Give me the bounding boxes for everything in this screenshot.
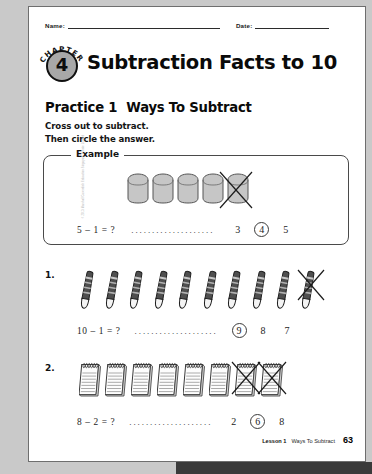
crayon-item [79, 269, 95, 315]
screenshot-root: Name: Date: CHAPTER 4 Subtraction Facts … [0, 0, 372, 474]
crayon-item [104, 269, 120, 315]
question-2-choices: 268 [226, 414, 289, 429]
cross-out-mark [218, 170, 254, 214]
practice-title: Ways To Subtract [126, 100, 251, 115]
notepad-item [105, 361, 129, 403]
date-input-line[interactable] [255, 21, 329, 29]
cube-item [125, 171, 151, 209]
page-footer: Lesson 1 Ways To Subtract 63 [262, 435, 353, 445]
crayon-item [153, 269, 169, 315]
example-dots: .................... [131, 225, 214, 235]
page-left-gutter [0, 0, 28, 474]
cube-item [150, 171, 176, 209]
crayon-item [251, 269, 267, 315]
page-right-gutter [366, 0, 372, 474]
notepad-item [183, 361, 207, 403]
choice[interactable]: 8 [256, 323, 271, 338]
footer-page-number: 63 [340, 435, 353, 445]
question-2-number: 2. [45, 363, 55, 373]
worksheet-page: Name: Date: CHAPTER 4 Subtraction Facts … [28, 6, 366, 462]
notepad-item [79, 361, 103, 403]
choice-circled[interactable]: 6 [250, 414, 265, 429]
example-choices: 345 [230, 222, 293, 237]
question-1-number: 1. [45, 270, 55, 280]
cube-item [175, 171, 201, 209]
page-title: Subtraction Facts to 10 [87, 51, 337, 74]
question-2-dots: .................... [129, 417, 212, 427]
example-equation: 5 – 1 = ? [77, 225, 115, 235]
question-1-equation-row: 10 – 1 = ? .................... 987 [77, 323, 295, 338]
notepad-item [157, 361, 181, 403]
choice[interactable]: 2 [226, 414, 241, 429]
notepad-item [131, 361, 155, 403]
question-2-equation: 8 – 2 = ? [77, 417, 115, 427]
choice[interactable]: 3 [230, 222, 245, 237]
crayon-item [128, 269, 144, 315]
question-1-dots: .................... [135, 326, 218, 336]
cross-out-mark [296, 268, 326, 306]
chapter-badge: CHAPTER 4 [39, 41, 85, 87]
crayon-item [275, 269, 291, 315]
date-label: Date: [236, 22, 255, 29]
choice-circled[interactable]: 9 [232, 323, 247, 338]
footer-title: Ways To Subtract [291, 438, 335, 444]
example-label: Example [71, 149, 124, 159]
cross-out-mark [256, 360, 288, 400]
question-1-equation: 10 – 1 = ? [77, 326, 121, 336]
practice-heading: Practice 1Ways To Subtract [45, 100, 252, 115]
name-input-line[interactable] [68, 21, 220, 29]
crayon-item [202, 269, 218, 315]
question-1-choices: 987 [232, 323, 295, 338]
choice-circled[interactable]: 4 [254, 222, 269, 237]
crayon-item [177, 269, 193, 315]
chapter-number: 4 [39, 41, 85, 87]
example-equation-row: 5 – 1 = ? .................... 345 [77, 222, 293, 237]
copyright-notice: © 2013 Marshall Cavendish Education Sing… [82, 99, 85, 219]
choice[interactable]: 7 [280, 323, 295, 338]
instruction-line-2: Then circle the answer. [45, 134, 155, 144]
page-bottom-strip [176, 462, 372, 474]
footer-lesson: Lesson 1 [262, 438, 286, 444]
name-label: Name: [45, 22, 68, 29]
name-date-row: Name: Date: [45, 21, 353, 29]
choice[interactable]: 5 [278, 222, 293, 237]
choice[interactable]: 8 [274, 414, 289, 429]
crayon-item [226, 269, 242, 315]
instruction-line-1: Cross out to subtract. [45, 121, 149, 131]
question-2-equation-row: 8 – 2 = ? .................... 268 [77, 414, 289, 429]
